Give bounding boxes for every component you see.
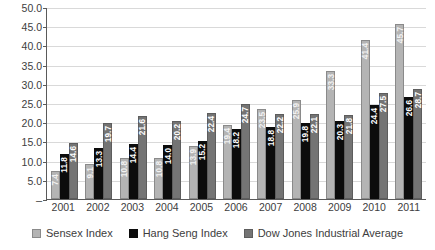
bar-dow-jones-industrial-average[interactable]: 20.2 bbox=[172, 121, 181, 199]
x-axis-tick-label: 2005 bbox=[184, 202, 219, 213]
bar-hang-seng-index[interactable]: 13.3 bbox=[94, 148, 103, 199]
bar-dow-jones-industrial-average[interactable]: 14.6 bbox=[69, 143, 78, 199]
bar-hang-seng-index[interactable]: 15.2 bbox=[198, 141, 207, 199]
bar-value-label: 41.4 bbox=[361, 43, 369, 59]
bar-group: 19.418.224.7 bbox=[219, 8, 253, 199]
bar-value-label: 24.7 bbox=[241, 107, 249, 123]
y-axis-tick-label: 10.0 bbox=[0, 156, 42, 167]
bar-chart: 50.045.040.035.030.025.020.015.010.05.0–… bbox=[0, 0, 435, 250]
legend-swatch-hang-seng-icon bbox=[129, 229, 138, 238]
y-axis-tick-mark bbox=[43, 200, 47, 201]
plot-wrapper: 50.045.040.035.030.025.020.015.010.05.0–… bbox=[0, 8, 435, 208]
x-axis-tick-label: 2009 bbox=[322, 202, 357, 213]
x-axis-tick-label: 2011 bbox=[391, 202, 426, 213]
bar-dow-jones-industrial-average[interactable]: 21.8 bbox=[344, 115, 353, 199]
bar-dow-jones-industrial-average[interactable]: 22.1 bbox=[310, 114, 319, 199]
bar-dow-jones-industrial-average[interactable]: 27.5 bbox=[379, 93, 388, 199]
bar-hang-seng-index[interactable]: 24.4 bbox=[370, 105, 379, 199]
x-axis-tick-label: 2010 bbox=[357, 202, 392, 213]
bar-dow-jones-industrial-average[interactable]: 28.7 bbox=[413, 89, 422, 199]
bar-group: 41.424.427.5 bbox=[357, 8, 391, 199]
bar-hang-seng-index[interactable]: 18.8 bbox=[266, 127, 275, 199]
bar-sensex-index[interactable]: 23.5 bbox=[257, 109, 266, 199]
y-axis-tick-label: 35.0 bbox=[0, 60, 42, 71]
y-axis-tick-label: – bbox=[0, 195, 42, 206]
bar-value-label: 13.3 bbox=[95, 151, 103, 167]
bar-group: 45.726.628.7 bbox=[392, 8, 426, 199]
bar-hang-seng-index[interactable]: 26.6 bbox=[404, 97, 413, 199]
legend-item[interactable]: Sensex Index bbox=[32, 228, 113, 239]
bar-value-label: 21.8 bbox=[345, 118, 353, 134]
bar-sensex-index[interactable]: 7.4 bbox=[51, 171, 60, 199]
bar-value-label: 45.7 bbox=[396, 27, 404, 43]
bar-value-label: 26.6 bbox=[405, 100, 413, 116]
legend-swatch-sensex-icon bbox=[32, 229, 41, 238]
bar-value-label: 15.2 bbox=[198, 144, 206, 160]
bar-sensex-index[interactable]: 25.9 bbox=[292, 100, 301, 199]
bar-value-label: 7.4 bbox=[51, 174, 59, 186]
x-axis-tick-label: 2003 bbox=[115, 202, 150, 213]
bar-value-label: 21.6 bbox=[138, 119, 146, 135]
bar-value-label: 22.4 bbox=[207, 116, 215, 132]
x-axis-tick-label: 2002 bbox=[81, 202, 116, 213]
bar-group: 33.320.321.8 bbox=[323, 8, 357, 199]
bar-group: 10.814.020.2 bbox=[150, 8, 184, 199]
bar-group: 7.411.814.6 bbox=[47, 8, 81, 199]
x-axis-tick-label: 2007 bbox=[253, 202, 288, 213]
bar-hang-seng-index[interactable]: 19.8 bbox=[301, 123, 310, 199]
x-axis-tick-label: 2006 bbox=[219, 202, 254, 213]
x-axis: 2001200220032004200520062007200820092010… bbox=[46, 202, 426, 213]
bar-dow-jones-industrial-average[interactable]: 22.4 bbox=[207, 113, 216, 199]
bar-dow-jones-industrial-average[interactable]: 22.2 bbox=[275, 114, 284, 199]
legend-item-label: Sensex Index bbox=[46, 228, 113, 239]
bar-value-label: 9.1 bbox=[86, 167, 94, 179]
bar-group: 25.919.822.1 bbox=[288, 8, 322, 199]
bar-value-label: 14.6 bbox=[69, 146, 77, 162]
legend-item[interactable]: Hang Seng Index bbox=[129, 228, 228, 239]
bar-groups: 7.411.814.69.113.319.710.814.421.610.814… bbox=[47, 8, 426, 199]
y-axis-tick-label: 25.0 bbox=[0, 99, 42, 110]
bar-hang-seng-index[interactable]: 14.0 bbox=[163, 145, 172, 199]
bar-dow-jones-industrial-average[interactable]: 21.6 bbox=[138, 116, 147, 199]
bar-value-label: 20.2 bbox=[172, 124, 180, 140]
x-axis-tick-label: 2001 bbox=[46, 202, 81, 213]
bar-value-label: 20.3 bbox=[336, 124, 344, 140]
y-axis-tick-label: 40.0 bbox=[0, 41, 42, 52]
bar-value-label: 19.7 bbox=[104, 126, 112, 142]
bar-group: 23.518.822.2 bbox=[254, 8, 288, 199]
y-axis-tick-label: 20.0 bbox=[0, 118, 42, 129]
bar-group: 9.113.319.7 bbox=[81, 8, 115, 199]
x-axis-tick-label: 2004 bbox=[150, 202, 185, 213]
y-axis-tick-label: 5.0 bbox=[0, 176, 42, 187]
y-axis-tick-label: 30.0 bbox=[0, 80, 42, 91]
bar-value-label: 10.8 bbox=[154, 161, 162, 177]
bar-group: 13.915.222.4 bbox=[185, 8, 219, 199]
y-axis-tick-label: 50.0 bbox=[0, 3, 42, 14]
y-axis-tick-label: 15.0 bbox=[0, 137, 42, 148]
bar-sensex-index[interactable]: 10.8 bbox=[154, 158, 163, 199]
y-axis-tick-label: 45.0 bbox=[0, 22, 42, 33]
legend-item[interactable]: Dow Jones Industrial Average bbox=[244, 228, 403, 239]
bar-sensex-index[interactable]: 9.1 bbox=[85, 164, 94, 199]
bar-value-label: 33.3 bbox=[327, 74, 335, 90]
bar-value-label: 14.4 bbox=[129, 147, 137, 163]
bar-value-label: 22.1 bbox=[310, 117, 318, 133]
bar-sensex-index[interactable]: 10.8 bbox=[120, 158, 129, 199]
bar-group: 10.814.421.6 bbox=[116, 8, 150, 199]
chart-legend: Sensex IndexHang Seng IndexDow Jones Ind… bbox=[0, 228, 435, 239]
bar-value-label: 18.2 bbox=[232, 132, 240, 148]
bar-value-label: 14.0 bbox=[163, 148, 171, 164]
plot-area: 7.411.814.69.113.319.710.814.421.610.814… bbox=[46, 8, 426, 200]
legend-swatch-dow-jones-icon bbox=[244, 229, 253, 238]
bar-value-label: 18.8 bbox=[267, 130, 275, 146]
bar-dow-jones-industrial-average[interactable]: 24.7 bbox=[241, 104, 250, 199]
legend-item-label: Dow Jones Industrial Average bbox=[258, 228, 403, 239]
bar-value-label: 23.5 bbox=[258, 112, 266, 128]
bar-dow-jones-industrial-average[interactable]: 19.7 bbox=[103, 123, 112, 199]
y-axis: 50.045.040.035.030.025.020.015.010.05.0– bbox=[0, 8, 42, 200]
x-axis-tick-label: 2008 bbox=[288, 202, 323, 213]
bar-hang-seng-index[interactable]: 14.4 bbox=[129, 144, 138, 199]
bar-value-label: 25.9 bbox=[292, 103, 300, 119]
legend-item-label: Hang Seng Index bbox=[143, 228, 228, 239]
bar-hang-seng-index[interactable]: 18.2 bbox=[232, 129, 241, 199]
